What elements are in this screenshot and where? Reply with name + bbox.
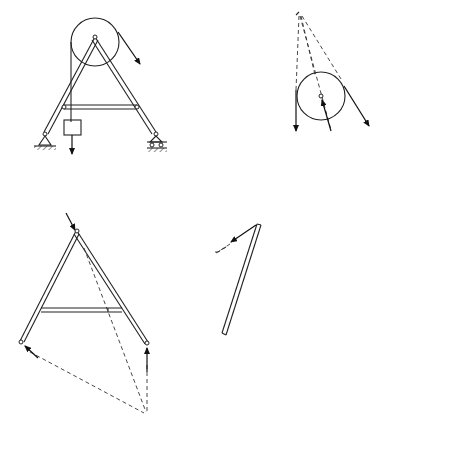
panel-c	[0, 0, 149, 413]
weight-block	[64, 120, 81, 135]
force-arrow-FC-prime	[66, 213, 75, 230]
roller-support-B	[150, 136, 162, 142]
panel-d	[214, 224, 261, 335]
figure-1-27	[0, 0, 474, 453]
bar-AC	[44, 37, 95, 132]
panel-a	[34, 18, 167, 154]
force-arrow-FC	[322, 100, 331, 131]
force-arrow-FA	[25, 346, 38, 358]
bar-CB	[95, 37, 156, 132]
pulley-circle	[71, 18, 119, 66]
force-arrow-F	[118, 32, 140, 64]
mechanics-diagram	[0, 0, 474, 453]
force-arrow-F	[344, 86, 369, 126]
pin-support-A	[39, 136, 51, 145]
